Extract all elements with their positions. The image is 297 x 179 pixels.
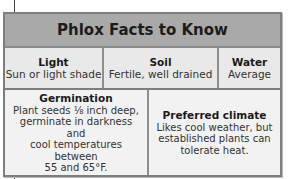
cell-soil: Soil Fertile, well drained bbox=[104, 48, 219, 88]
facts-row-detail: Germination Plant seeds ⅛ inch deep, ger… bbox=[5, 90, 280, 175]
cell-germination: Germination Plant seeds ⅛ inch deep, ger… bbox=[5, 90, 149, 175]
cell-line: tolerate heat. bbox=[180, 145, 248, 157]
cell-value: Fertile, well drained bbox=[109, 68, 213, 80]
cell-heading: Water bbox=[232, 56, 268, 68]
cell-water: Water Average bbox=[219, 48, 280, 88]
margin-rule-top bbox=[14, 0, 15, 12]
cell-line: Plant seeds ⅛ inch deep, bbox=[13, 105, 139, 117]
cell-line: germinate in darkness and bbox=[9, 116, 143, 139]
cell-value: Sun or light shade bbox=[6, 68, 102, 80]
cell-line: established plants can bbox=[158, 133, 270, 145]
cell-heading: Light bbox=[38, 56, 68, 68]
cell-line: 55 and 65°F. bbox=[45, 162, 108, 174]
table-title: Phlox Facts to Know bbox=[5, 14, 280, 48]
cell-heading: Soil bbox=[150, 56, 172, 68]
cell-preferred-climate: Preferred climate Likes cool weather, bu… bbox=[149, 90, 280, 175]
facts-row-basic: Light Sun or light shade Soil Fertile, w… bbox=[5, 48, 280, 90]
cell-heading: Preferred climate bbox=[163, 109, 267, 121]
cell-heading: Germination bbox=[39, 92, 112, 104]
cell-light: Light Sun or light shade bbox=[5, 48, 104, 88]
phlox-facts-table: Phlox Facts to Know Light Sun or light s… bbox=[3, 12, 282, 177]
cell-line: cool temperatures between bbox=[9, 139, 143, 162]
cell-value: Average bbox=[228, 68, 271, 80]
cell-line: Likes cool weather, but bbox=[157, 122, 273, 134]
